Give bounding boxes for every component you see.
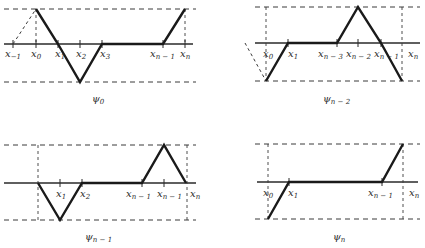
svg-text:x0: x0 (263, 187, 274, 200)
svg-text:x−1: x−1 (5, 48, 21, 61)
svg-text:x0: x0 (31, 48, 42, 61)
panel-psi-n-minus-1: x1 x2 xn − 1 xn − 1 xn ψn − 1 (4, 145, 201, 244)
svg-text:xn − 1: xn − 1 (368, 187, 393, 200)
basis-functions-diagram: x−1 x0 x1 x2 x3 xn − 1 xn ψ0 x0 x1 xn − … (0, 0, 425, 248)
panel-psi-n: x0 x1 xn − 1 xn ψn (255, 144, 420, 244)
svg-text:xn: xn (409, 187, 420, 200)
caption-psi-0: ψ0 (92, 93, 105, 106)
psi-n-minus-2-curve (266, 7, 402, 81)
svg-text:xn − 1: xn − 1 (374, 48, 399, 61)
caption-psi-n-minus-1: ψn − 1 (85, 231, 112, 244)
svg-text:x0: x0 (263, 48, 274, 61)
svg-text:x2: x2 (80, 188, 91, 201)
svg-text:x1: x1 (56, 188, 66, 201)
svg-text:xn − 1: xn − 1 (126, 188, 151, 201)
svg-text:xn − 2: xn − 2 (346, 48, 371, 61)
svg-text:x1: x1 (288, 187, 298, 200)
svg-text:xn: xn (408, 48, 419, 61)
svg-text:xn − 1: xn − 1 (150, 48, 175, 61)
svg-text:x3: x3 (100, 48, 111, 61)
svg-text:x1: x1 (55, 48, 65, 61)
extension-dashed (13, 9, 36, 44)
svg-text:x1: x1 (288, 48, 298, 61)
panel-psi-0: x−1 x0 x1 x2 x3 xn − 1 xn ψ0 (4, 9, 196, 106)
svg-text:xn − 1: xn − 1 (157, 188, 182, 201)
svg-text:x2: x2 (76, 48, 87, 61)
caption-psi-n-minus-2: ψn − 2 (323, 93, 351, 106)
psi-n-curve (268, 144, 403, 219)
svg-text:xn − 3: xn − 3 (318, 48, 343, 61)
svg-text:xn: xn (190, 188, 201, 201)
svg-text:xn: xn (180, 48, 191, 61)
caption-psi-n: ψn (333, 231, 346, 244)
panel-psi-n-minus-2: x0 x1 xn − 3 xn − 2 xn − 1 xn ψn − 2 (245, 7, 420, 106)
